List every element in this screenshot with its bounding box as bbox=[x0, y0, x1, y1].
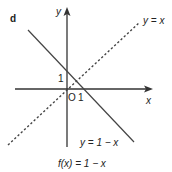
line-label-y-equals-1-minus-x: y = 1 − x bbox=[79, 137, 119, 148]
figure-caption: f(x) = 1 − x bbox=[58, 158, 107, 169]
origin-label: O bbox=[68, 92, 76, 103]
y-tick-label: 1 bbox=[58, 73, 64, 84]
line-y-equals-1-minus-x bbox=[28, 30, 134, 142]
function-graph: d y x O 1 1 y = x y = 1 − x f(x) = 1 − x bbox=[0, 0, 172, 172]
y-axis-label: y bbox=[55, 6, 62, 17]
x-tick-label: 1 bbox=[78, 92, 84, 103]
panel-label: d bbox=[10, 13, 16, 24]
line-label-y-equals-x: y = x bbox=[142, 15, 165, 26]
x-axis-label: x bbox=[145, 95, 152, 106]
